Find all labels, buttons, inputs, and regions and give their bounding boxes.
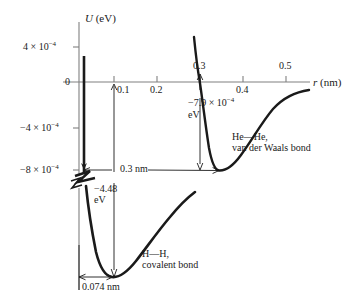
y-tick-label-4e-4: 4 × 10−4: [23, 41, 56, 53]
helium-well-depth-label: −7.9 × 10−4 eV: [188, 97, 234, 120]
y-tick-label-0: 0: [65, 76, 70, 87]
helium-bond-label: He—He, van der Waals bond: [232, 131, 311, 153]
hydrogen-well-depth-arrow: [111, 84, 117, 277]
helium-separation-arrow: [84, 168, 219, 174]
y-axis-title: U (eV): [85, 12, 116, 24]
hydrogen-well-depth-label: −4.48 eV: [94, 183, 117, 205]
x-axis-title: r (nm): [313, 76, 341, 88]
y-tick-label-minus-4e-4: −4 × 10−4: [20, 122, 59, 134]
x-tick-label-0-4: 0.4: [236, 84, 249, 95]
hydrogen-separation-label: 0.074 nm: [82, 281, 120, 292]
hydrogen-bond-label: H—H, covalent bond: [142, 248, 198, 270]
y-tick-label-minus-8e-4: −8 × 10−4: [20, 164, 59, 176]
x-tick-label-0-2: 0.2: [150, 84, 163, 95]
potential-energy-figure: U (eV) r (nm) 4 × 10−4 0 −4 × 10−4 −8 × …: [0, 0, 349, 304]
x-tick-label-0-5: 0.5: [279, 60, 292, 71]
axis-break-symbol: [71, 171, 95, 188]
x-tick-label-0-1: 0.1: [117, 84, 130, 95]
helium-separation-label: 0.3 nm: [120, 163, 148, 174]
y-tick-marks: [73, 47, 79, 170]
x-tick-label-0-3: 0.3: [193, 60, 206, 71]
helium-well-depth-arrow: [197, 74, 203, 170]
